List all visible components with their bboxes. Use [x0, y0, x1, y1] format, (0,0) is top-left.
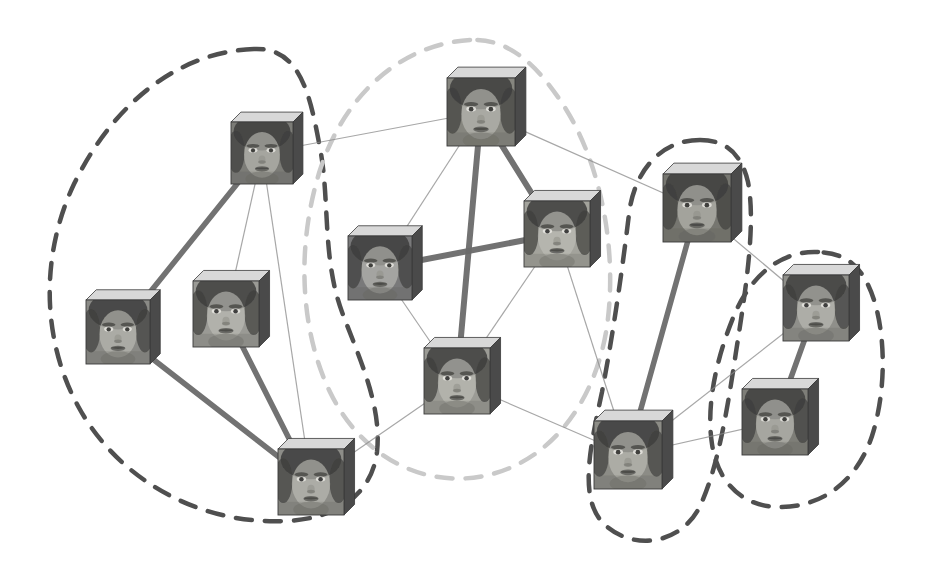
face-node-face-6[interactable] — [344, 224, 424, 303]
face-node-face-7[interactable] — [520, 188, 603, 269]
face-node-hit-area[interactable] — [422, 335, 503, 416]
face-node-hit-area[interactable] — [346, 224, 424, 302]
face-node-hit-area[interactable] — [229, 110, 305, 186]
face-node-hit-area[interactable] — [781, 262, 862, 343]
face-node-hit-area[interactable] — [661, 161, 744, 244]
face-node-face-12[interactable] — [738, 376, 821, 457]
face-node-face-8[interactable] — [420, 335, 503, 416]
face-node-face-3[interactable] — [189, 268, 272, 349]
face-node-face-2[interactable] — [82, 288, 162, 367]
face-node-face-9[interactable] — [659, 161, 744, 245]
figure-root — [0, 0, 926, 572]
face-node-face-10[interactable] — [590, 408, 675, 492]
face-node-hit-area[interactable] — [592, 408, 675, 491]
face-node-hit-area[interactable] — [191, 268, 272, 349]
face-node-face-11[interactable] — [779, 262, 862, 343]
face-node-hit-area[interactable] — [445, 65, 528, 148]
face-node-face-4[interactable] — [274, 436, 357, 517]
face-node-hit-area[interactable] — [522, 188, 603, 269]
face-node-face-5[interactable] — [443, 65, 528, 149]
face-node-face-1[interactable] — [227, 110, 305, 186]
face-node-hit-area[interactable] — [740, 376, 821, 457]
face-node-hit-area[interactable] — [84, 288, 162, 366]
face-node-hit-area[interactable] — [276, 436, 357, 517]
face-graph-canvas — [0, 0, 926, 572]
